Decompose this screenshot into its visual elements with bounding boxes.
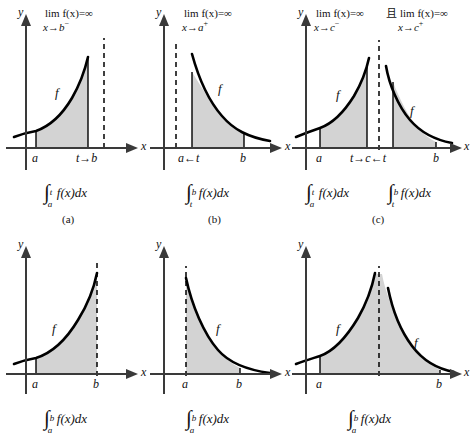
tick-label-a: a [316,152,322,164]
improper-integral-figure: y x lim f(x)=∞ x→b− f a t→b ∫taf(x)dx (a… [0,0,472,444]
x-axis-label: x [464,140,469,152]
x-axis-arrow [126,369,138,379]
panel-d-graph [0,236,158,396]
integral-expression-left: ∫taf(x)dx [306,182,349,199]
y-axis-label: y [18,6,23,18]
integral-expression: ∫taf(x)dx [44,182,87,199]
y-axis-label: y [18,238,23,250]
limit-right-line-1: lim f(x)=∞ [400,8,448,19]
x-axis-arrow [450,369,462,379]
x-axis-arrow [270,143,282,153]
integral-expression: ∫baf(x)dx [348,408,391,425]
limit-left-line-1: lim f(x)=∞ [316,8,364,19]
limit-statement-right: lim f(x)=∞ x→c+ [400,8,448,33]
x-axis-arrow [270,369,282,379]
curve-label-f-left: f [336,322,340,335]
conjunction-character: 且 [386,8,397,19]
tick-label-at: a←t [178,152,199,164]
tick-label-b: b [93,378,99,390]
tick-label-tct: t→c←t [350,152,386,164]
y-axis-label: y [156,6,161,18]
panel-e-graph [146,236,296,396]
tick-label-a: a [32,152,38,164]
limit-statement: lim f(x)=∞ x→a+ [184,8,232,33]
limit-right-line-2: x→c+ [398,20,448,33]
curve-label-f: f [218,82,222,95]
tick-label-a: a [182,378,188,390]
shaded-region [36,274,97,374]
integral-body-right: f(x)dx [401,185,431,200]
shaded-region [36,58,88,148]
tick-label-b: b [236,378,242,390]
panel-f: y x f f a b ∫baf(x)dx [288,236,472,444]
y-axis-label: y [298,6,303,18]
tick-label-a: a [316,378,322,390]
curve-label-f: f [216,322,220,335]
limit-statement-left: lim f(x)=∞ x→c− [316,8,364,33]
panel-a: y x lim f(x)=∞ x→b− f a t→b ∫taf(x)dx (a… [0,0,158,230]
limit-left-line-2: x→c− [314,20,364,33]
limit-statement: lim f(x)=∞ x→b− [45,8,93,33]
integral-expression: ∫baf(x)dx [186,408,229,425]
panel-b: y x lim f(x)=∞ x→a+ f a←t b ∫btf(x)dx (b… [146,0,296,230]
shaded-region-left [320,66,367,148]
curve-label-f: f [52,322,56,335]
shaded-region-right [393,82,436,148]
panel-caption-a: (a) [62,214,74,225]
panel-c: y x lim f(x)=∞ x→c− 且 lim f(x)=∞ x→c+ f … [288,0,472,230]
limit-line-2: x→a+ [182,20,232,33]
integral-expression: ∫baf(x)dx [44,408,87,425]
panel-d: y x f a b ∫baf(x)dx [0,236,158,444]
limit-line-1: lim f(x)=∞ [45,8,93,19]
panel-caption-b: (b) [208,214,221,225]
integral-body-left: f(x)dx [319,185,349,200]
x-axis-label: x [464,366,469,378]
integral-expression: ∫btf(x)dx [186,182,229,199]
limit-line-1: lim f(x)=∞ [184,8,232,19]
limit-line-2: x→b− [43,20,93,33]
tick-label-b: b [433,152,439,164]
y-axis-label: y [298,238,303,250]
panel-f-graph [288,236,472,396]
curve-label-f-right: f [410,104,414,117]
tick-label-b: b [240,152,246,164]
integral-body: f(x)dx [361,411,391,426]
panel-caption-c: (c) [372,214,384,225]
integral-expression-right: ∫btf(x)dx [388,182,431,199]
panel-e: y x f a b ∫baf(x)dx [146,236,296,444]
curve-label-f-right: f [414,336,418,349]
curve-label-f-left: f [336,88,340,101]
y-axis-label: y [156,238,161,250]
integral-body: f(x)dx [57,185,87,200]
curve-label-f: f [55,86,59,99]
x-axis-arrow [450,143,462,153]
integral-body: f(x)dx [199,411,229,426]
x-axis-arrow [126,143,138,153]
tick-label-tb: t→b [76,152,97,164]
tick-label-b: b [436,378,442,390]
integral-body: f(x)dx [199,185,229,200]
integral-body: f(x)dx [57,411,87,426]
tick-label-a: a [32,378,38,390]
